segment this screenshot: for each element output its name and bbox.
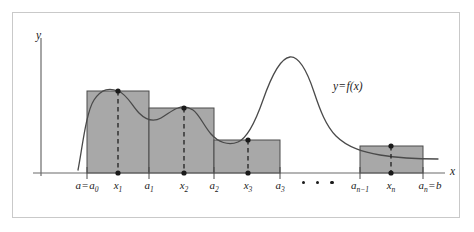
tick-label-a0-sub: 0 [95,185,99,194]
tick-label-an-equals-b: an=b [419,180,442,191]
tick-label-xn-sub: n [392,185,396,194]
x-axis-label: x [450,166,455,178]
y-axis-label: y [36,30,41,42]
ellipsis-dot-3 [330,181,333,184]
curve-dot-xn [388,143,393,148]
riemann-sum-plot [0,0,474,232]
curve-dot-x3 [245,137,250,142]
tick-label-an-minus-1-sub: n−1 [356,185,369,194]
tick-label-a0: a=a0 [76,180,99,191]
tick-label-a3: a3 [275,180,284,191]
ellipsis-dots [302,181,334,184]
tick-label-a2: a2 [209,180,218,191]
curve-label-equals: = [338,80,347,92]
tick-label-an-minus-1: an−1 [351,180,369,191]
riemann-rectangles [87,91,423,173]
tick-label-x2: x2 [180,180,189,191]
ellipsis-dot-1 [302,181,305,184]
curve-equation-label: y=f(x) [333,81,363,93]
axis-dot-x2 [181,170,186,175]
tick-label-a2-symbol: a [209,179,215,191]
tick-label-a1: a1 [144,180,153,191]
tick-label-a3-symbol: a [275,179,281,191]
riemann-sum-figure: y x y=f(x) a=a0 a1 a2 a3 an−1 an=b x1 x2… [0,0,474,232]
tick-label-x3-sub: 3 [249,185,253,194]
axis-dot-x1 [115,170,120,175]
axis-dot-x3 [245,170,250,175]
riemann-rectangle-3 [214,140,280,173]
tick-label-a3-sub: 3 [281,185,285,194]
curve-dot-x2 [181,105,186,110]
tick-label-a1-symbol: a [144,179,150,191]
tick-label-x3: x3 [244,180,253,191]
tick-label-an-minus-1-symbol: a [351,179,357,191]
tick-label-an-symbol: a [419,179,425,191]
tick-label-a0-equals: = [81,179,89,191]
tick-label-x1-sub: 1 [119,185,123,194]
tick-label-b: b [436,179,442,191]
axis-dot-xn [388,170,393,175]
tick-label-a2-sub: 2 [215,185,219,194]
curve-dot-x1 [115,88,120,93]
tick-label-xn: xn [387,180,396,191]
ellipsis-dot-2 [316,181,319,184]
tick-label-x2-sub: 2 [185,185,189,194]
tick-label-a0-prefix: a [76,179,82,191]
curve-label-function: f(x) [347,80,363,92]
riemann-rectangle-2 [149,108,214,173]
tick-label-an-sub: n [424,185,428,194]
tick-label-x1: x1 [114,180,123,191]
tick-label-a1-sub: 1 [150,185,154,194]
